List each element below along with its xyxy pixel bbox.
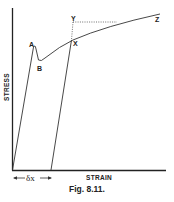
delta-x-label: δx [26,173,35,183]
dotted-vertical-x-to-y [72,22,74,40]
unloading-line [51,40,72,170]
stress-strain-curve [13,14,161,170]
stress-strain-diagram: A B X Y Z STRESS STRAIN δx [0,0,174,202]
label-point-a: A [29,41,34,48]
label-point-z: Z [155,16,160,23]
label-point-x: X [73,40,78,47]
arrow-left-icon [13,176,17,179]
figure-caption: Fig. 8.11. [0,184,174,194]
label-point-y: Y [71,15,76,22]
arrow-right-icon [48,176,52,179]
y-axis-label: STRESS [3,73,10,101]
x-axis-label: STRAIN [86,174,112,181]
label-point-b: B [37,65,42,72]
delta-x-dimension: δx [13,173,52,183]
